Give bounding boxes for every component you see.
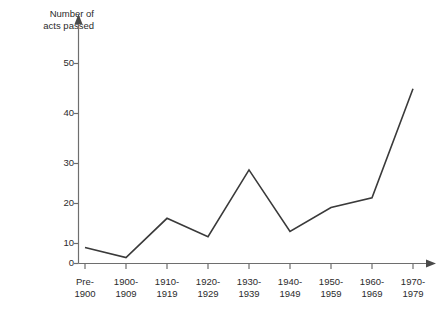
x-axis-ticks — [85, 264, 413, 270]
x-axis — [79, 260, 437, 268]
y-axis — [75, 14, 83, 264]
line-chart: Number of acts passed 50 40 30 20 10 0 P… — [0, 0, 442, 321]
plot-area — [0, 0, 442, 321]
data-series-line — [85, 89, 413, 258]
y-axis-ticks — [74, 64, 79, 264]
